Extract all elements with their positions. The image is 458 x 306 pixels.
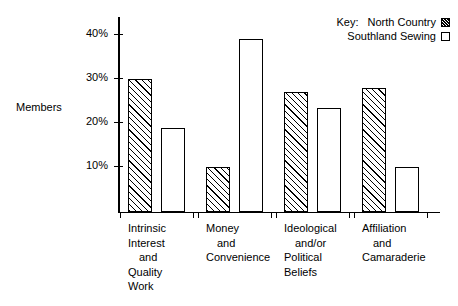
category-label-line: Beliefs [284, 265, 337, 280]
category-label-line: and [128, 250, 166, 265]
category-label-line: Interest [128, 236, 166, 251]
category-label-line: and [206, 236, 270, 251]
category-label: IntrinsicInterestandQualityWork [128, 221, 166, 294]
category-label-line: Camaraderie [362, 250, 426, 265]
category-label: Ideologicaland/orPoliticalBeliefs [284, 221, 337, 279]
y-axis-tick-label: 10% [86, 159, 108, 172]
x-axis-tick [354, 212, 355, 218]
category-label: AffiliationandCamaraderie [362, 221, 426, 265]
y-axis-tick-label: 20% [86, 115, 108, 128]
bar-chart: Key: North Country Southland Sewing Memb… [0, 0, 458, 306]
category-label-line: Quality [128, 265, 166, 280]
bar-southland-sewing [395, 167, 419, 211]
category-label-line: Intrinsic [128, 221, 166, 236]
category-label-line: Ideological [284, 221, 337, 236]
hatched-swatch-icon [441, 18, 450, 27]
x-axis-tick [120, 212, 121, 218]
y-axis-tick: 10% [114, 166, 123, 167]
category-label-line: Political [284, 250, 337, 265]
y-axis-tick-label: 30% [86, 71, 108, 84]
category-label-line: and [362, 236, 426, 251]
bar-north-country [206, 167, 230, 211]
bar-north-country [362, 88, 386, 212]
y-axis-tick: 20% [114, 122, 123, 123]
category-label: MoneyandConvenience [206, 221, 270, 265]
y-axis-tick-label: 40% [86, 27, 108, 40]
y-axis-line [118, 17, 120, 213]
y-axis-tick: 40% [114, 34, 123, 35]
x-axis-category-labels: IntrinsicInterestandQualityWorkMoneyandC… [118, 221, 458, 306]
plot-area: 10%20%30%40% [118, 17, 440, 213]
plain-swatch-icon [441, 32, 450, 41]
x-axis-line [118, 212, 440, 214]
x-axis-tick [276, 212, 277, 218]
bar-southland-sewing [161, 128, 185, 212]
x-axis-tick [427, 212, 428, 218]
category-label-line: Affiliation [362, 221, 426, 236]
category-label-line: Money [206, 221, 270, 236]
category-label-line: and/or [284, 236, 337, 251]
category-label-line: Work [128, 279, 166, 294]
category-label-line: Convenience [206, 250, 270, 265]
y-axis-tick: 30% [114, 78, 123, 79]
x-axis-tick [349, 212, 350, 218]
x-axis-tick [193, 212, 194, 218]
bar-north-country [284, 92, 308, 211]
x-axis-tick [198, 212, 199, 218]
bar-southland-sewing [317, 108, 341, 212]
x-axis-tick [271, 212, 272, 218]
bar-southland-sewing [239, 39, 263, 211]
y-axis-label: Members [16, 101, 62, 113]
bar-north-country [128, 79, 152, 212]
